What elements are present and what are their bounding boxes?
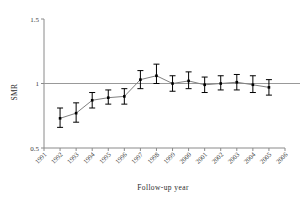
data-point-marker [139,78,142,81]
data-point-marker [171,82,174,85]
data-point-marker [107,96,110,99]
data-point-marker [187,80,190,83]
y-axis-tick-label: 1.5 [30,16,39,24]
y-axis-title: SMR [10,83,19,100]
data-point-marker [268,86,271,89]
data-point-marker [203,83,206,86]
chart-container: 0.511.5 19911992199319941995199619971998… [0,0,306,199]
chart-background [0,0,306,199]
data-point-marker [252,83,255,86]
y-axis-tick-label: 1 [36,80,40,88]
y-axis-tick-label: 0.5 [30,145,39,153]
data-point-marker [59,117,62,120]
data-point-marker [219,82,222,85]
data-point-marker [236,81,239,84]
data-point-marker [75,112,78,115]
smr-line-chart: 0.511.5 19911992199319941995199619971998… [0,0,306,199]
data-point-marker [155,74,158,77]
data-point-marker [123,95,126,98]
data-point-marker [91,99,94,102]
x-axis-title: Follow-up year [137,183,189,192]
